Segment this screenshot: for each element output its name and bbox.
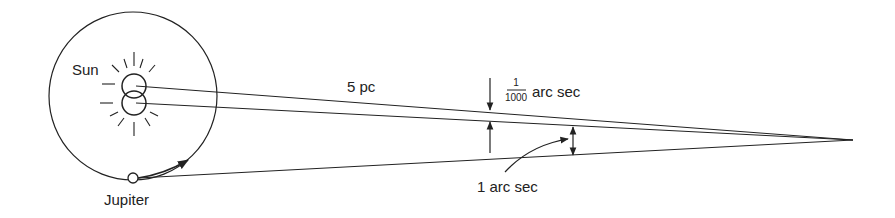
- jupiter-orbit: [49, 12, 217, 180]
- fraction-denominator: 1000: [505, 92, 528, 103]
- large-angle-label: 1 arc sec: [477, 178, 538, 195]
- jupiter-label: Jupiter: [104, 191, 149, 208]
- sight-line-sun-lower: [136, 103, 853, 140]
- small-angle-unit-label: arc sec: [532, 83, 581, 100]
- sight-line-sun-upper: [136, 86, 853, 140]
- parallax-diagram: Sun Jupiter 5 pc 1 1000 arc sec 1 arc se…: [0, 0, 895, 218]
- sight-line-jupiter: [138, 140, 853, 178]
- sun-rays-icon: [100, 52, 158, 136]
- jupiter-icon: [128, 173, 138, 183]
- distance-label: 5 pc: [347, 78, 376, 95]
- fraction-numerator: 1: [513, 77, 519, 88]
- sun-label: Sun: [72, 61, 99, 78]
